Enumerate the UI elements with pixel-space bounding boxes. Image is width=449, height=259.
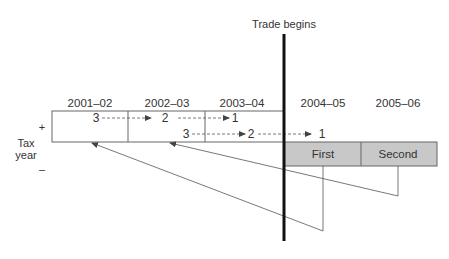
loss-box-first-label: First [312, 148, 335, 160]
row2-step-1: 1 [319, 127, 326, 141]
row2-step-2: 2 [248, 127, 255, 141]
year-label-2003-04: 2003–04 [220, 97, 265, 109]
row1-step-3: 3 [93, 111, 100, 125]
loss-relief-diagram: Trade begins 2001–02 2002–03 2003–04 200… [0, 0, 449, 259]
trade-begins-label: Trade begins [252, 18, 316, 30]
year-label-2004-05: 2004–05 [301, 97, 346, 109]
loss-box-second-label: Second [378, 148, 417, 160]
row1-step-1: 1 [232, 111, 239, 125]
year-label-2005-06: 2005–06 [376, 97, 421, 109]
year-label-2002-03: 2002–03 [145, 97, 190, 109]
row1-step-2: 2 [162, 111, 169, 125]
positive-sign: + [39, 121, 45, 133]
negative-sign: – [39, 163, 46, 175]
axis-label-tax: Tax [17, 137, 35, 149]
row2-step-3: 3 [183, 127, 190, 141]
axis-label-year: year [15, 149, 37, 161]
year-label-2001-02: 2001–02 [68, 97, 113, 109]
